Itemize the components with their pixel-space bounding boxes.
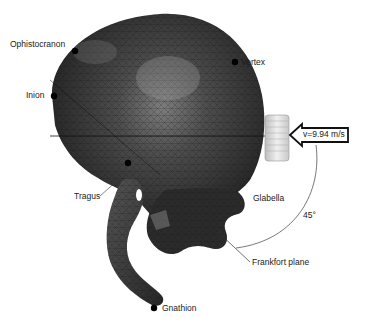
landmark-vertex xyxy=(232,59,238,65)
skull-diagram xyxy=(0,0,374,327)
landmark-inion xyxy=(51,93,57,99)
label-gnathion: Gnathion xyxy=(162,304,197,313)
label-vertex: Vertex xyxy=(241,58,265,67)
impactor-icon xyxy=(265,115,289,161)
label-angle: 45° xyxy=(303,211,316,220)
label-glabella: Glabella xyxy=(253,194,284,203)
velocity-label: v=9.94 m/s xyxy=(303,130,345,139)
label-frankfort-plane: Frankfort plane xyxy=(252,258,309,267)
label-inion: Inion xyxy=(26,91,44,100)
label-ophistocranon: Ophistocranon xyxy=(10,40,65,49)
label-tragus: Tragus xyxy=(74,192,100,201)
landmark-ophistocranon xyxy=(72,48,78,54)
landmark-gnathion xyxy=(151,305,157,311)
landmark-tragus xyxy=(125,160,131,166)
